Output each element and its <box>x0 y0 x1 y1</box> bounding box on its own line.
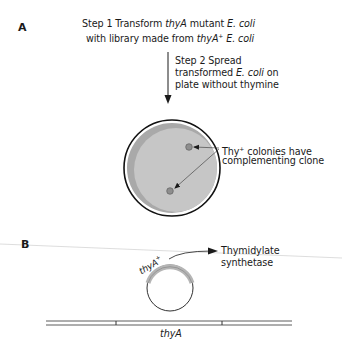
step2-line3: plate without thymine <box>175 79 279 91</box>
gene-thyA-plus: thyA <box>197 33 219 44</box>
organism: E. coli <box>226 33 254 44</box>
organism: E. coli <box>227 18 255 29</box>
product-line1: Thymidylate <box>221 245 280 257</box>
colony-2 <box>167 188 174 195</box>
panel-a-label: A <box>18 21 27 34</box>
chromosome <box>46 321 292 325</box>
gene-thyA: thyA <box>165 18 187 29</box>
colony-1 <box>186 144 193 151</box>
step2-line2: transformed E. coli on <box>175 67 279 79</box>
organism: E. coli <box>236 67 264 78</box>
petri-plate <box>124 120 220 216</box>
expression-arrowhead <box>208 248 218 255</box>
plasmid <box>147 265 193 311</box>
step2-line1: Step 2 Spread <box>175 55 242 67</box>
panel-b-label: B <box>21 238 29 251</box>
step1-text: mutant <box>187 18 227 29</box>
step1-text: with library made from <box>86 33 197 44</box>
step2-text: transformed <box>175 67 236 78</box>
chromosome-gene-label: thyA <box>160 328 182 340</box>
scan-line <box>0 244 342 258</box>
step1-text: Step 1 Transform <box>82 18 165 29</box>
colony-label-line2: complementing clone <box>222 155 324 167</box>
product-line2: synthetase <box>221 257 273 269</box>
step1-line1: Step 1 Transform thyA mutant E. coli <box>82 18 255 30</box>
step1-line2: with library made from thyA+ E. coli <box>86 30 254 45</box>
gene-thyA: thyA <box>160 328 182 339</box>
diagram-graphics <box>0 0 342 345</box>
superscript: + <box>218 32 223 39</box>
step2-arrow <box>165 52 172 104</box>
step2-text: on <box>264 67 279 78</box>
